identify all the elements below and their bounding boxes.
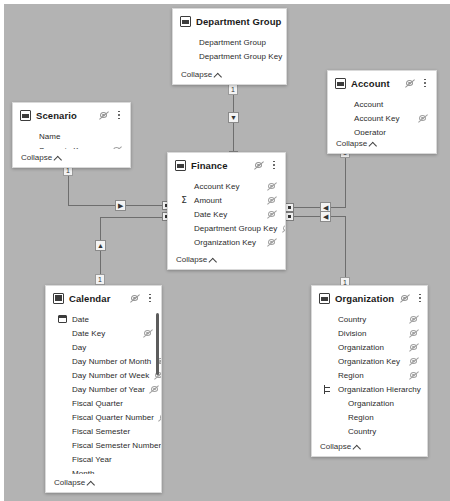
table-header[interactable]: Account	[328, 71, 436, 94]
table-card-calendar[interactable]: Calendar Date Date Key Day Day Number of…	[45, 285, 162, 493]
field-row[interactable]: Region	[312, 410, 427, 424]
eye-slash-icon[interactable]	[158, 413, 161, 422]
field-row[interactable]: Account Key	[168, 179, 285, 193]
field-list[interactable]: Department Group Department Group Key	[173, 32, 286, 66]
table-header[interactable]: Scenario	[13, 103, 130, 126]
field-row[interactable]: Fiscal Semester	[46, 424, 161, 438]
relationship-arrow-left-organization[interactable]: ◀	[320, 211, 331, 222]
table-header[interactable]: Organization	[312, 286, 427, 309]
field-row[interactable]: Country	[312, 424, 427, 438]
field-row[interactable]: Date	[46, 312, 161, 326]
field-row[interactable]: Division	[312, 326, 427, 340]
field-row[interactable]: Date Key	[168, 207, 285, 221]
field-row[interactable]: Fiscal Quarter	[46, 396, 161, 410]
field-row[interactable]: Name	[13, 129, 130, 143]
kebab-menu-icon[interactable]	[269, 159, 279, 171]
kebab-menu-icon[interactable]	[420, 77, 430, 89]
eye-slash-icon[interactable]	[142, 329, 153, 338]
collapse-button[interactable]: Collapse	[168, 251, 285, 269]
relationship-anchor-finance-right-upper[interactable]	[285, 203, 294, 212]
relationship-arrow-down[interactable]: ▼	[228, 112, 239, 123]
field-label: Date Key	[194, 210, 262, 219]
field-row[interactable]: Organization Key	[312, 354, 427, 368]
eye-slash-icon[interactable]	[408, 371, 419, 380]
table-header[interactable]: Calendar	[46, 286, 161, 309]
field-row[interactable]: Day Number of Month	[46, 354, 161, 368]
eye-slash-icon[interactable]	[98, 111, 109, 120]
relationship-line-organization-finance-v[interactable]	[345, 216, 346, 284]
eye-slash-icon[interactable]	[408, 329, 419, 338]
relationship-line-organization-finance-h[interactable]	[288, 216, 346, 217]
eye-slash-icon[interactable]	[149, 385, 160, 394]
relationship-line-account-finance-h[interactable]	[288, 207, 346, 208]
kebab-menu-icon[interactable]	[114, 109, 124, 121]
relationship-anchor-finance-right-lower[interactable]	[285, 212, 294, 221]
table-card-account[interactable]: Account Account Account Key Operator Typ…	[327, 70, 437, 154]
table-title: Finance	[191, 160, 248, 171]
field-list[interactable]: Account Key Σ Amount Date Key Department…	[168, 176, 285, 251]
field-list[interactable]: Date Date Key Day Day Number of Month Da…	[46, 309, 161, 474]
table-card-department-group[interactable]: Department Group Department Group Depart…	[172, 8, 287, 85]
vertical-scrollbar[interactable]	[156, 313, 159, 375]
field-list[interactable]: Name Scenario Key	[13, 126, 130, 149]
table-card-finance[interactable]: Finance Account Key Σ Amount Date Key De…	[167, 152, 286, 270]
eye-slash-icon[interactable]	[253, 161, 264, 170]
collapse-button[interactable]: Collapse	[46, 474, 161, 492]
table-header[interactable]: Department Group	[173, 9, 286, 32]
eye-slash-icon[interactable]	[404, 79, 415, 88]
collapse-button[interactable]: Collapse	[312, 438, 427, 456]
eye-slash-icon[interactable]	[408, 315, 419, 324]
field-row[interactable]: Region	[312, 368, 427, 382]
relationship-arrow-right-scenario[interactable]: ▶	[115, 200, 126, 211]
field-row[interactable]: Day	[46, 340, 161, 354]
field-row-measure[interactable]: Σ Amount	[168, 193, 285, 207]
collapse-button[interactable]: Collapse	[328, 135, 436, 153]
field-row[interactable]: Date Key	[46, 326, 161, 340]
collapse-button[interactable]: Collapse	[173, 66, 286, 84]
field-list[interactable]: Country Division Organization Organizati…	[312, 309, 427, 438]
eye-slash-icon[interactable]	[399, 294, 410, 303]
field-row[interactable]: Department Group Key	[173, 49, 286, 63]
table-header[interactable]: Finance	[168, 153, 285, 176]
kebab-menu-icon[interactable]	[415, 292, 425, 304]
relationship-line-account-finance-v[interactable]	[345, 153, 346, 207]
relationship-arrow-up-calendar[interactable]: ▲	[95, 240, 106, 251]
field-row[interactable]: Organization Key	[168, 235, 285, 249]
field-list[interactable]: Account Account Key Operator Type Value …	[328, 94, 436, 135]
eye-slash-icon[interactable]	[111, 146, 122, 150]
field-row-hierarchy[interactable]: Organization Hierarchy	[312, 382, 427, 396]
relationship-line-calendar-finance-h[interactable]	[100, 217, 168, 218]
eye-slash-icon[interactable]	[266, 182, 277, 191]
eye-slash-icon[interactable]	[266, 238, 277, 247]
field-row[interactable]: Department Group	[173, 35, 286, 49]
field-row[interactable]: Day Number of Week	[46, 368, 161, 382]
field-row[interactable]: Organization	[312, 396, 427, 410]
field-row[interactable]: Department Group Key	[168, 221, 285, 235]
eye-slash-icon[interactable]	[266, 210, 277, 219]
field-row[interactable]: Scenario Key	[168, 249, 285, 251]
eye-slash-icon[interactable]	[266, 196, 277, 205]
field-label: Fiscal Semester Number	[72, 441, 161, 450]
field-row[interactable]: Month	[46, 466, 161, 474]
kebab-menu-icon[interactable]	[145, 292, 155, 304]
field-row[interactable]: Account Key	[328, 111, 436, 125]
field-row[interactable]: Account	[328, 97, 436, 111]
table-card-scenario[interactable]: Scenario Name Scenario Key Collapse	[12, 102, 131, 168]
field-row[interactable]: Day Number of Year	[46, 382, 161, 396]
field-label: Fiscal Quarter Number	[72, 413, 154, 422]
eye-slash-icon[interactable]	[129, 294, 140, 303]
eye-slash-icon[interactable]	[417, 114, 428, 123]
collapse-button[interactable]: Collapse	[13, 149, 130, 167]
eye-slash-icon[interactable]	[408, 357, 419, 366]
field-row[interactable]: Country	[312, 312, 427, 326]
table-card-organization[interactable]: Organization Country Division Organizati…	[311, 285, 428, 457]
field-row[interactable]: Fiscal Semester Number	[46, 438, 161, 452]
field-row[interactable]: Fiscal Year	[46, 452, 161, 466]
field-row[interactable]: Scenario Key	[13, 143, 130, 149]
eye-slash-icon[interactable]	[408, 343, 419, 352]
eye-slash-icon[interactable]	[281, 224, 285, 233]
field-row[interactable]: Operator	[328, 125, 436, 135]
field-row[interactable]: Organization	[312, 340, 427, 354]
field-label: Account Key	[354, 114, 413, 123]
field-row[interactable]: Fiscal Quarter Number	[46, 410, 161, 424]
